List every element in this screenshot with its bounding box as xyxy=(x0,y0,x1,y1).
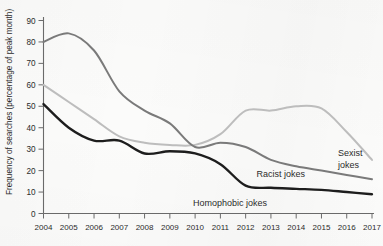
series-label-sexist-line1: Sexist xyxy=(338,148,363,158)
chart-page: Frequency of searches (percentage of pea… xyxy=(0,0,383,246)
x-tick-label: 2009 xyxy=(161,223,179,232)
y-axis-title: Frequency of searches (percentage of pea… xyxy=(5,9,14,195)
x-tick-label: 2008 xyxy=(136,223,154,232)
y-tick-label: 10 xyxy=(26,188,36,197)
x-tick-label: 2017 xyxy=(363,223,381,232)
x-tick-label: 2006 xyxy=(85,223,103,232)
x-tick-label: 2015 xyxy=(313,223,331,232)
series-group xyxy=(44,33,373,194)
x-tick-group: 2004200520062007200820092010201120122013… xyxy=(35,214,382,232)
x-tick-label: 2005 xyxy=(60,223,78,232)
y-tick-label: 80 xyxy=(26,38,36,47)
y-tick-label: 40 xyxy=(26,124,36,133)
x-tick-label: 2007 xyxy=(110,223,128,232)
x-tick-label: 2013 xyxy=(262,223,280,232)
axes xyxy=(44,17,375,214)
y-tick-label: 70 xyxy=(26,59,36,68)
y-tick-label: 50 xyxy=(26,102,36,111)
series-path-sexist-jokes xyxy=(44,85,373,160)
x-tick-label: 2016 xyxy=(338,223,356,232)
series-label-sexist-line2: jokes xyxy=(337,160,360,170)
x-tick-label: 2011 xyxy=(212,223,230,232)
x-tick-label: 2012 xyxy=(237,223,255,232)
x-tick-label: 2014 xyxy=(287,223,305,232)
x-tick-label: 2004 xyxy=(35,223,53,232)
y-tick-label: 90 xyxy=(26,17,36,26)
series-label-racist: Racist jokes xyxy=(256,169,305,179)
y-tick-label: 60 xyxy=(26,81,36,90)
series-label-homophobic: Homophobic jokes xyxy=(193,198,268,208)
y-tick-label: 0 xyxy=(31,210,36,219)
y-tick-label: 30 xyxy=(26,145,36,154)
y-tick-group: 0102030405060708090 xyxy=(26,17,43,219)
y-tick-label: 20 xyxy=(26,167,36,176)
x-tick-label: 2010 xyxy=(186,223,204,232)
line-chart: Frequency of searches (percentage of pea… xyxy=(0,0,383,246)
